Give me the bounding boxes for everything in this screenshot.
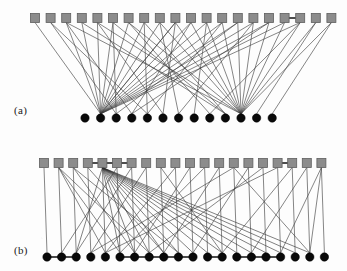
graph-edge <box>281 168 322 253</box>
circle-node <box>252 114 260 122</box>
graph-edge <box>59 168 62 253</box>
square-node <box>202 14 211 23</box>
square-node <box>69 159 78 168</box>
circle-node <box>96 114 104 122</box>
panel-a <box>0 0 347 140</box>
square-node <box>109 14 118 23</box>
circle-node <box>268 114 276 122</box>
graph-edge <box>179 23 254 114</box>
circle-node <box>101 253 109 261</box>
circle-node <box>233 253 241 261</box>
square-node <box>187 14 196 23</box>
square-node <box>77 14 86 23</box>
square-node <box>200 159 209 168</box>
square-node <box>302 159 311 168</box>
circle-node <box>203 253 211 261</box>
graph-edge <box>248 168 251 253</box>
graph-edge <box>222 168 292 253</box>
bottom-node-layer <box>81 114 277 122</box>
square-node <box>113 159 122 168</box>
circle-node <box>87 253 95 261</box>
circle-node <box>174 253 182 261</box>
figure-container: (a) (b) <box>0 0 347 271</box>
square-node <box>249 14 258 23</box>
square-node <box>140 14 149 23</box>
square-node <box>229 159 238 168</box>
panel-b-graph <box>0 140 347 271</box>
graph-edge <box>146 168 149 253</box>
graph-edge <box>101 23 129 114</box>
panel-a-graph <box>0 0 347 140</box>
graph-edge <box>101 23 269 114</box>
panel-label-b: (b) <box>14 244 28 256</box>
graph-edge <box>241 23 331 114</box>
panel-label-a: (a) <box>14 104 27 116</box>
circle-node <box>218 253 226 261</box>
graph-edge <box>321 168 324 253</box>
square-node <box>265 14 274 23</box>
square-node <box>280 14 289 23</box>
graph-edge <box>102 168 236 253</box>
graph-edge <box>66 23 241 114</box>
circle-node <box>143 114 151 122</box>
square-node <box>273 159 282 168</box>
square-node <box>124 14 133 23</box>
circle-node <box>190 114 198 122</box>
circle-node <box>145 253 153 261</box>
circle-node <box>130 253 138 261</box>
circle-node <box>43 253 51 261</box>
graph-edge <box>307 168 310 253</box>
circle-node <box>160 253 168 261</box>
square-node <box>215 159 224 168</box>
circle-node <box>116 253 124 261</box>
graph-edge <box>73 168 76 253</box>
square-node <box>98 159 107 168</box>
graph-edge <box>149 168 263 253</box>
square-node <box>83 159 92 168</box>
circle-node <box>174 114 182 122</box>
square-node <box>156 159 165 168</box>
graph-edge <box>210 23 300 114</box>
graph-edge <box>263 168 266 253</box>
square-node <box>93 14 102 23</box>
circle-node <box>237 114 245 122</box>
square-node <box>186 159 195 168</box>
graph-edge <box>193 168 248 253</box>
square-node <box>40 159 49 168</box>
square-node <box>54 159 63 168</box>
square-node <box>171 159 180 168</box>
square-node <box>244 159 253 168</box>
square-node <box>62 14 71 23</box>
graph-edge <box>102 168 266 253</box>
circle-node <box>112 114 120 122</box>
graph-edge <box>101 23 254 114</box>
graph-edge <box>292 168 295 253</box>
square-node <box>155 14 164 23</box>
circle-node <box>159 114 167 122</box>
graph-edge <box>44 168 47 253</box>
circle-node <box>262 253 270 261</box>
square-node <box>31 14 40 23</box>
square-node <box>259 159 268 168</box>
circle-node <box>128 114 136 122</box>
graph-edge <box>234 168 237 253</box>
circle-node <box>81 114 89 122</box>
circle-node <box>276 253 284 261</box>
edge-layer <box>44 168 324 253</box>
circle-node <box>221 114 229 122</box>
panel-b <box>0 140 347 271</box>
circle-node <box>306 253 314 261</box>
square-node <box>288 159 297 168</box>
circle-node <box>247 253 255 261</box>
circle-node <box>189 253 197 261</box>
square-node <box>311 14 320 23</box>
circle-node <box>57 253 65 261</box>
graph-edge <box>76 168 131 253</box>
graph-edge <box>175 168 178 253</box>
circle-node <box>320 253 328 261</box>
square-node <box>127 159 136 168</box>
square-node <box>142 159 151 168</box>
graph-edge <box>35 23 101 114</box>
square-node <box>296 14 305 23</box>
graph-edge <box>101 23 285 114</box>
